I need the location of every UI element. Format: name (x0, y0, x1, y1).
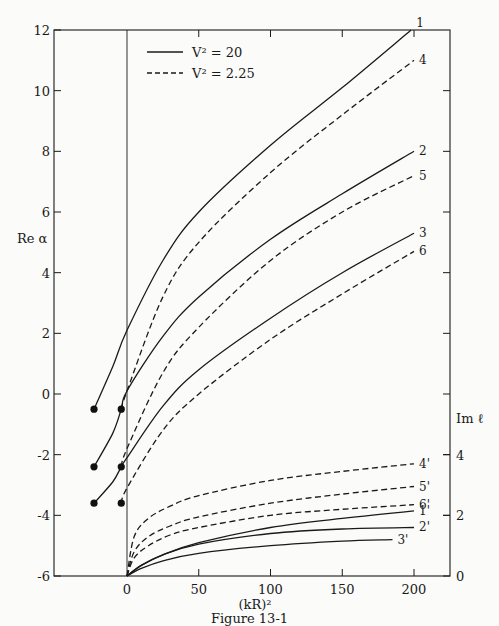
curve-label-3p: 3' (397, 533, 408, 547)
start-point-marker (90, 500, 97, 507)
y-tick-label-right: 2 (456, 508, 464, 523)
curve-label-5p: 5' (419, 480, 430, 494)
curve-label-2p: 2' (419, 520, 430, 534)
curves (94, 30, 414, 576)
start-point-marker (118, 500, 125, 507)
y-tick-label-left: -6 (37, 569, 50, 584)
curve-label-3: 3 (419, 226, 427, 240)
y-tick-label-left: 4 (42, 266, 50, 281)
y-tick-label-left: 2 (42, 326, 50, 341)
curve-label-5: 5 (419, 169, 427, 183)
x-tick-label: 150 (330, 582, 355, 597)
x-axis-title: (kR)² (238, 597, 271, 612)
start-markers (90, 406, 124, 507)
y-tick-label-right: 4 (456, 448, 464, 463)
curve-label-2: 2 (419, 144, 427, 158)
curve-5 (121, 176, 414, 467)
start-point-marker (90, 463, 97, 470)
curve-label-1p: 1' (419, 504, 430, 518)
axes-frame (54, 30, 450, 576)
y-tick-label-left: 12 (33, 23, 50, 38)
y-tick-label-left: 0 (42, 387, 50, 402)
curve-4 (121, 60, 414, 409)
y-tick-label-left: 10 (33, 84, 50, 99)
legend-item-dashed: V² = 2.25 (191, 66, 255, 81)
plot-border (54, 30, 450, 576)
x-tick-label: 50 (190, 582, 207, 597)
y-axis-left-title: Re α (17, 231, 48, 246)
y-axis-right-title: Im ℓ (456, 411, 484, 426)
y-tick-label-left: 8 (42, 144, 50, 159)
x-tick-label: 0 (123, 582, 131, 597)
x-tick-label: 200 (402, 582, 427, 597)
start-point-marker (90, 406, 97, 413)
y-tick-label-left: -4 (37, 508, 50, 523)
legend: V² = 20 V² = 2.25 (147, 45, 255, 81)
figure-caption: Figure 13-1 (0, 611, 499, 626)
curve-6 (121, 251, 414, 503)
curve-5p (127, 487, 414, 577)
curve-label-1: 1 (416, 16, 424, 30)
curve-1p (127, 511, 414, 576)
curve-3p (127, 540, 393, 576)
curve-label-4p: 4' (419, 457, 430, 471)
x-tick-label: 100 (258, 582, 283, 597)
curve-label-6: 6 (419, 244, 427, 258)
start-point-marker (118, 463, 125, 470)
y-tick-label-left: -2 (37, 448, 50, 463)
start-point-marker (118, 406, 125, 413)
y-tick-label-left: 6 (42, 205, 50, 220)
legend-item-solid: V² = 20 (191, 45, 242, 60)
curve-label-4: 4 (419, 53, 427, 67)
axis-ticks: -6-4-2024681012050100150200024 (33, 23, 464, 597)
curve-labels: 1425364'5'6'1'2'3' (397, 16, 429, 547)
y-tick-label-right: 0 (456, 569, 464, 584)
